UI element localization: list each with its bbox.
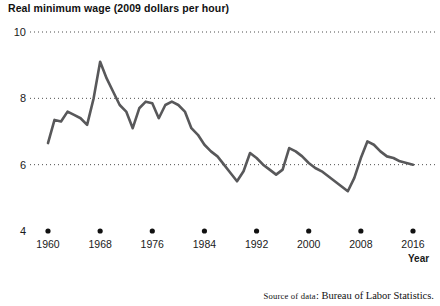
x-tick-dot-2016 xyxy=(410,228,415,233)
x-tick-label-1960: 1960 xyxy=(36,238,60,250)
x-tick-dot-2000 xyxy=(306,228,311,233)
x-tick-label-1992: 1992 xyxy=(245,238,269,250)
x-tick-dot-1968 xyxy=(98,228,103,233)
y-tick-label-4: 4 xyxy=(20,225,26,237)
x-tick-label-2008: 2008 xyxy=(349,238,373,250)
x-tick-label-2016: 2016 xyxy=(401,238,425,250)
y-tick-label-10: 10 xyxy=(14,26,26,38)
y-tick-label-8: 8 xyxy=(20,92,26,104)
x-tick-label-1976: 1976 xyxy=(141,238,165,250)
chart-figure: Real minimum wage (2009 dollars per hour… xyxy=(0,0,440,306)
x-tick-dot-2008 xyxy=(358,228,363,233)
x-tick-dot-1984 xyxy=(202,228,207,233)
source-note-label: Source of data xyxy=(263,291,315,301)
x-tick-dot-1960 xyxy=(45,228,50,233)
y-axis-tick-labels: 10864 xyxy=(14,26,26,237)
x-axis-tick-labels: 19601968197619841992200020082016 xyxy=(36,238,425,250)
line-chart-plot: 10864 19601968197619841992200020082016 Y… xyxy=(0,0,440,306)
x-tick-dot-1992 xyxy=(254,228,259,233)
source-note-colon: : xyxy=(316,290,319,301)
x-tick-label-1984: 1984 xyxy=(193,238,217,250)
x-axis-title: Year xyxy=(408,253,429,264)
x-tick-label-2000: 2000 xyxy=(297,238,321,250)
source-note-value: Bureau of Labor Statistics. xyxy=(321,290,434,301)
x-axis-tick-marks xyxy=(45,228,415,233)
y-tick-label-6: 6 xyxy=(20,159,26,171)
wage-data-line xyxy=(48,62,413,191)
x-tick-dot-1976 xyxy=(150,228,155,233)
x-tick-label-1968: 1968 xyxy=(88,238,112,250)
source-of-data-note: Source of data: Bureau of Labor Statisti… xyxy=(263,290,434,301)
